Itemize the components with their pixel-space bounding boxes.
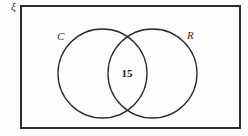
universal-set-symbol: ξ [11, 0, 16, 12]
venn-diagram-figure: ξ C R 15 [0, 0, 248, 136]
intersection-region-count: 15 [117, 67, 137, 79]
set-label-r: R [187, 30, 194, 41]
set-label-c: C [57, 31, 64, 42]
